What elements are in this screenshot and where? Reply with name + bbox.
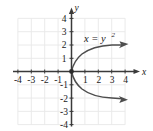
graph-figure: -4 -3 -2 -1 1 2 3 4 4 3 2 1 -1 -2 -3 -4 …: [0, 0, 153, 131]
equation-exponent-text: 2: [112, 31, 116, 39]
y-tick-label-neg1: -1: [60, 80, 68, 90]
y-tick-label-pos1: 1: [62, 54, 67, 64]
x-tick-label-neg4: -4: [14, 75, 22, 85]
equation-base-text: x = y: [83, 33, 106, 44]
y-tick-label-pos4: 4: [62, 14, 67, 24]
y-tick-label-pos3: 3: [62, 27, 67, 37]
vertex-point: [69, 69, 74, 74]
x-tick-label-neg3: -3: [27, 75, 35, 85]
coordinate-plane-svg: -4 -3 -2 -1 1 2 3 4 4 3 2 1 -1 -2 -3 -4 …: [0, 0, 153, 131]
x-tick-label-neg2: -2: [41, 75, 49, 85]
y-axis-label: y: [73, 3, 79, 13]
x-tick-label-pos2: 2: [96, 75, 101, 85]
y-tick-label-neg2: -2: [60, 94, 68, 104]
x-tick-label-pos1: 1: [83, 75, 88, 85]
x-tick-label-pos4: 4: [123, 75, 128, 85]
y-tick-label-neg3: -3: [60, 107, 68, 117]
x-tick-label-pos3: 3: [110, 75, 115, 85]
x-axis-label: x: [141, 67, 147, 77]
y-tick-label-pos2: 2: [62, 40, 67, 50]
y-tick-label-neg4: -4: [60, 120, 68, 130]
